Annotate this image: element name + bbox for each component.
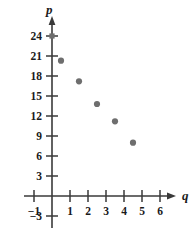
y-tick-label: 18 (31, 70, 43, 82)
x-tick-label: 4 (121, 205, 127, 217)
x-tick-label: 6 (157, 205, 163, 217)
y-tick-label: 6 (36, 150, 42, 162)
data-point (58, 58, 64, 64)
x-axis-label: q (182, 188, 189, 203)
y-axis-label: p (45, 2, 53, 17)
x-tick-label: 3 (103, 205, 109, 217)
x-axis-tick-labels: −1123456 (28, 205, 163, 217)
data-point (94, 101, 100, 107)
y-axis-tick-labels: 2421181512963−3 (30, 30, 43, 222)
axis-mark (49, 33, 54, 38)
y-tick-label: 24 (31, 30, 43, 42)
data-point (76, 78, 82, 84)
y-tick-label: 9 (36, 130, 42, 142)
y-tick-label: 21 (31, 50, 43, 62)
x-tick-label: −1 (28, 205, 41, 217)
x-axis-arrow-icon (167, 193, 176, 200)
y-tick-label: 12 (31, 110, 43, 122)
data-point (130, 140, 136, 146)
x-tick-label: 1 (67, 205, 73, 217)
y-tick-label: 15 (31, 90, 43, 102)
axis-mark-group (49, 33, 54, 38)
axis-group (24, 16, 176, 228)
scatter-plot-figure: 2421181512963−3 −1123456 p q (0, 0, 196, 235)
data-point-group (58, 58, 136, 146)
y-tick-label: 3 (36, 170, 42, 182)
y-axis-arrow-icon (49, 16, 56, 25)
data-point (112, 118, 118, 124)
x-tick-label: 5 (139, 205, 145, 217)
plot-canvas: 2421181512963−3 −1123456 p q (0, 0, 196, 235)
x-tick-label: 2 (85, 205, 91, 217)
